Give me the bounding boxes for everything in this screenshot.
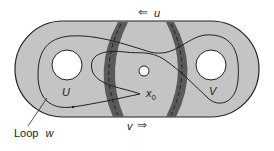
v-arrow-icon: ⇒ — [137, 119, 147, 131]
hole-center — [139, 66, 149, 76]
loop-tick — [72, 106, 74, 108]
hole-left — [52, 50, 82, 80]
u-label: u — [154, 8, 160, 19]
loop-text: Loop — [14, 127, 38, 139]
region-u-label: U — [62, 87, 70, 98]
loop-label: Loop w — [14, 128, 54, 139]
region-v-label: V — [209, 86, 216, 97]
loop-var: w — [46, 127, 54, 139]
basepoint-label: x0 — [146, 88, 156, 102]
basepoint-sub: 0 — [152, 93, 156, 102]
v-label: v — [127, 121, 133, 132]
u-arrow-icon: ⇐ — [138, 6, 148, 18]
hole-right — [196, 50, 226, 80]
